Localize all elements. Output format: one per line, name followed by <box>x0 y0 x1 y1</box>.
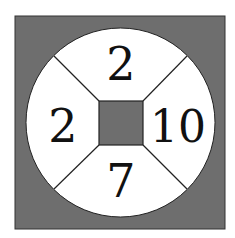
center-square <box>99 101 143 145</box>
wheel-diagram: 2 2 10 7 <box>0 0 235 238</box>
segment-right-number: 10 <box>150 101 206 152</box>
segment-bottom-number: 7 <box>106 154 135 208</box>
segment-top-number: 2 <box>106 37 135 91</box>
segment-left-number: 2 <box>48 99 77 153</box>
